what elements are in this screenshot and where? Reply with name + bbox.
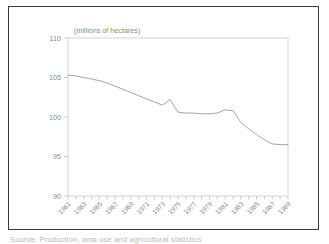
x-tick-label: 1961 (57, 200, 73, 216)
x-tick-label: 1985 (245, 200, 261, 216)
y-tick-label: 100 (49, 113, 61, 122)
line-chart: (millions of hectares) 9095100105110 196… (0, 0, 329, 244)
figure-caption: Source: Production, land use and agricul… (10, 236, 310, 244)
x-tick-label: 1973 (151, 200, 167, 216)
y-axis: 9095100105110 (49, 34, 68, 201)
x-axis: 1961196319651967196919711973197519771979… (57, 196, 293, 216)
x-tick-label: 1977 (182, 200, 198, 216)
x-tick-label: 1965 (88, 200, 104, 216)
x-tick-label: 1989 (277, 200, 293, 216)
caption-text: Source: Production, land use and agricul… (10, 236, 310, 244)
x-tick-label: 1981 (214, 200, 230, 216)
chart-title: (millions of hectares) (74, 26, 140, 35)
y-tick-label: 95 (53, 152, 61, 161)
x-tick-label: 1969 (119, 200, 135, 216)
x-tick-label: 1987 (261, 200, 277, 216)
plot-area (68, 38, 288, 196)
y-tick-label: 90 (53, 192, 61, 201)
x-tick-label: 1975 (167, 200, 183, 216)
data-series-line (68, 75, 288, 145)
x-tick-label: 1979 (198, 200, 214, 216)
x-tick-label: 1983 (229, 200, 245, 216)
figure-root: (millions of hectares) 9095100105110 196… (0, 0, 329, 244)
y-tick-label: 105 (49, 73, 61, 82)
x-tick-label: 1963 (72, 200, 88, 216)
y-tick-label: 110 (50, 34, 61, 43)
x-tick-label: 1967 (104, 200, 120, 216)
x-tick-label: 1971 (135, 200, 151, 216)
